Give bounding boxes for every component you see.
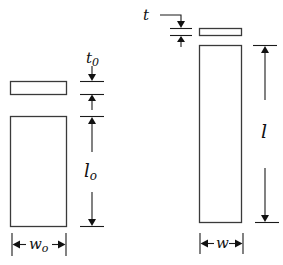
left-bar	[11, 117, 67, 227]
arrow-right-icon	[58, 241, 66, 249]
right-width-dimension: w	[200, 233, 243, 254]
left-thickness-label: t0	[86, 49, 99, 69]
arrow-down-icon	[88, 74, 96, 81]
right-width-label: w	[216, 234, 229, 252]
left-plate	[11, 82, 67, 95]
right-thickness-label: t	[143, 6, 150, 24]
left-width-dimension: wo	[12, 233, 66, 256]
left-width-label: wo	[29, 235, 49, 255]
arrow-left-icon	[201, 240, 209, 248]
left-length-label: lo	[84, 160, 97, 183]
deformation-diagram: t0 lo wo	[0, 0, 283, 265]
arrow-up-icon	[261, 46, 269, 53]
left-thickness-dimension: t0	[80, 49, 104, 110]
arrow-left-icon	[13, 241, 21, 249]
arrow-right-icon	[235, 240, 243, 248]
arrow-down-icon	[88, 219, 96, 226]
right-length-label: l	[261, 120, 267, 142]
left-length-dimension: lo	[80, 117, 104, 227]
left-specimen: t0 lo wo	[11, 49, 105, 256]
right-thickness-dimension: t	[143, 6, 192, 47]
right-bar	[200, 46, 242, 223]
arrow-up-icon	[177, 36, 185, 42]
right-length-dimension: l	[253, 46, 279, 223]
right-specimen: t l w	[143, 6, 279, 254]
arrow-up-icon	[88, 95, 96, 102]
arrow-down-icon	[261, 215, 269, 222]
right-plate	[200, 29, 242, 36]
arrow-down-icon	[177, 21, 185, 28]
arrow-up-icon	[88, 117, 96, 124]
